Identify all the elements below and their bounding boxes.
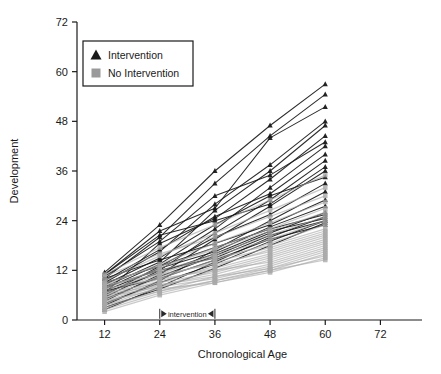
x-axis-title: Chronological Age <box>198 348 287 360</box>
data-point-marker <box>323 173 328 178</box>
data-point-marker <box>323 210 328 215</box>
y-axis-tick-label: 72 <box>56 16 68 28</box>
data-point-marker <box>213 256 218 261</box>
data-point-marker <box>213 262 218 267</box>
data-point-marker <box>157 251 162 256</box>
chart-legend: InterventionNo Intervention <box>83 41 193 86</box>
x-axis-tick-label: 24 <box>154 328 166 340</box>
data-point-marker <box>213 278 218 283</box>
y-axis-tick-label: 0 <box>62 314 68 326</box>
data-point-marker <box>268 233 273 238</box>
data-point-marker <box>323 206 328 211</box>
legend-item-label: No Intervention <box>108 67 179 79</box>
y-axis-tick-label: 36 <box>56 165 68 177</box>
square-icon <box>92 69 101 78</box>
data-point-marker <box>102 303 107 308</box>
data-point-marker <box>323 218 328 223</box>
y-axis-tick-label: 60 <box>56 66 68 78</box>
data-point-marker <box>213 241 218 246</box>
data-point-marker <box>268 237 273 242</box>
chart-figure: 0122436486072122436486072Chronological A… <box>0 0 441 374</box>
data-point-marker <box>102 274 107 279</box>
y-axis-title: Development <box>8 139 20 204</box>
data-point-marker <box>157 283 162 288</box>
annotation-label: intervention <box>168 310 207 319</box>
data-point-marker <box>323 223 328 228</box>
annotation-layer: intervention <box>160 309 215 319</box>
data-point-marker <box>213 223 218 228</box>
data-point-marker <box>268 214 273 219</box>
data-point-marker <box>213 231 218 236</box>
data-point-marker <box>213 274 218 279</box>
x-axis-tick-label: 36 <box>209 328 221 340</box>
data-point-marker <box>157 289 162 294</box>
data-point-marker <box>323 200 328 205</box>
data-point-marker <box>157 293 162 298</box>
y-axis-tick-label: 12 <box>56 264 68 276</box>
data-point-marker <box>157 276 162 281</box>
data-point-marker <box>268 220 273 225</box>
data-point-marker <box>323 185 328 190</box>
data-point-marker <box>102 299 107 304</box>
data-point-marker <box>323 214 328 219</box>
data-point-marker <box>157 272 162 277</box>
data-point-marker <box>268 198 273 203</box>
x-axis-tick-label: 72 <box>374 328 386 340</box>
data-point-marker <box>323 194 328 199</box>
data-point-marker <box>157 264 162 269</box>
data-point-marker <box>102 293 107 298</box>
data-point-marker <box>102 309 107 314</box>
data-point-marker <box>102 283 107 288</box>
intervention-annotation: intervention <box>160 309 215 319</box>
data-point-marker <box>157 245 162 250</box>
data-point-marker <box>268 229 273 234</box>
y-axis-tick-label: 48 <box>56 115 68 127</box>
x-axis-tick-label: 60 <box>319 328 331 340</box>
legend-item-label: Intervention <box>108 49 163 61</box>
data-point-marker <box>213 247 218 252</box>
x-axis-tick-label: 48 <box>264 328 276 340</box>
y-axis-tick-label: 24 <box>56 215 68 227</box>
data-point-marker <box>213 268 218 273</box>
data-point-marker <box>213 235 218 240</box>
scatter-line-plot: 0122436486072122436486072Chronological A… <box>0 0 441 374</box>
legend-box <box>83 41 193 86</box>
data-point-marker <box>268 208 273 213</box>
x-axis-tick-label: 12 <box>98 328 110 340</box>
data-point-marker <box>323 258 328 263</box>
data-point-marker <box>268 268 273 273</box>
data-point-marker <box>102 287 107 292</box>
